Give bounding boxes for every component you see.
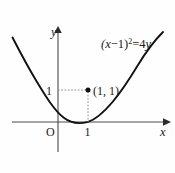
equation-var-y: y (144, 37, 152, 51)
x-tick-label-1: 1 (85, 125, 91, 139)
x-axis-label: x (159, 125, 166, 139)
figure-canvas: (1, 1) y x O 1 1 (x−1)2=4y (0, 0, 175, 173)
y-tick-label-1: 1 (46, 84, 52, 98)
marked-point-label: (1, 1) (93, 84, 119, 98)
y-axis-label: y (49, 25, 57, 39)
equation-minus-one: −1 (111, 37, 124, 51)
marked-point-dot (86, 88, 91, 93)
parabola-figure: (1, 1) y x O 1 1 (x−1)2=4y (0, 0, 175, 173)
origin-label: O (46, 125, 55, 139)
equation-annotation: (x−1)2=4y (101, 37, 152, 52)
equation-equals: = (132, 37, 139, 51)
figure-background (0, 0, 175, 173)
